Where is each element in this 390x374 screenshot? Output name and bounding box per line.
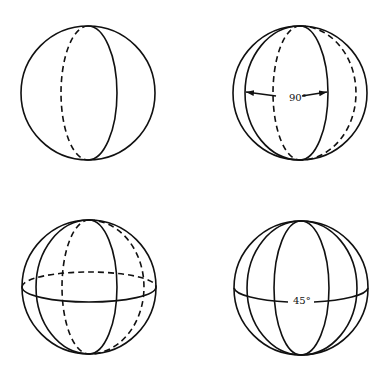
sphere-outline xyxy=(234,221,368,355)
meridian-3 xyxy=(301,221,329,355)
sphere-panel-top-left xyxy=(21,26,155,160)
equator-back xyxy=(22,272,156,287)
meridian-b-back xyxy=(62,220,89,354)
meridian-front xyxy=(88,26,117,160)
sphere-outline xyxy=(21,26,155,160)
equator-right xyxy=(314,288,368,302)
sphere-panel-bottom-right: 45° xyxy=(234,221,368,355)
meridian-back xyxy=(61,26,88,160)
angle-label-90: 90° xyxy=(289,92,307,103)
sphere-panel-top-right: 90° xyxy=(233,26,367,160)
meridian-a-front xyxy=(36,220,89,354)
equator-left xyxy=(234,288,288,302)
angle-arrow-left xyxy=(246,92,276,96)
meridian-b-front xyxy=(89,220,117,354)
spheres-diagram: 90° 45° xyxy=(0,0,390,374)
sphere-outline xyxy=(22,220,156,354)
meridian-2 xyxy=(274,221,301,355)
equator-front xyxy=(22,287,156,302)
angle-label-45: 45° xyxy=(293,295,311,306)
sphere-panel-bottom-left xyxy=(22,220,156,354)
